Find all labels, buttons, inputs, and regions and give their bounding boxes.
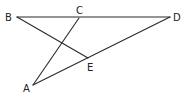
label-e: E [87, 62, 93, 73]
segment-be [17, 17, 88, 58]
label-a: A [23, 83, 30, 94]
geometry-diagram: B C D E A [0, 0, 187, 101]
segment-ad [33, 17, 170, 85]
label-b: B [5, 12, 12, 23]
segment-ca [33, 18, 79, 85]
label-c: C [76, 5, 83, 16]
label-d: D [173, 12, 181, 23]
